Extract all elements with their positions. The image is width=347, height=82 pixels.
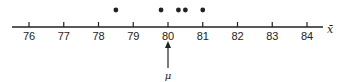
x-tick-label: 78 — [92, 30, 104, 42]
data-points — [113, 8, 205, 13]
arrow-up-icon — [165, 41, 171, 48]
mu-annotation: μ — [165, 41, 172, 81]
data-point — [183, 8, 188, 13]
x-axis-label: x̄ — [327, 23, 334, 36]
data-point — [113, 8, 118, 13]
data-point — [200, 8, 205, 13]
x-tick-label: 79 — [127, 30, 139, 42]
x-tick-label: 77 — [58, 30, 70, 42]
x-tick-label: 81 — [197, 30, 209, 42]
x-tick-label: 83 — [266, 30, 278, 42]
data-point — [159, 8, 164, 13]
mu-label: μ — [165, 70, 172, 81]
x-tick-label: 84 — [301, 30, 313, 42]
x-tick-label: 80 — [162, 30, 174, 42]
x-tick-label: 76 — [23, 30, 35, 42]
data-point — [176, 8, 181, 13]
x-tick-label: 82 — [231, 30, 243, 42]
dot-plot: 767778798081828384 x̄ μ — [0, 0, 347, 82]
x-axis-ticks: 767778798081828384 — [23, 22, 313, 42]
